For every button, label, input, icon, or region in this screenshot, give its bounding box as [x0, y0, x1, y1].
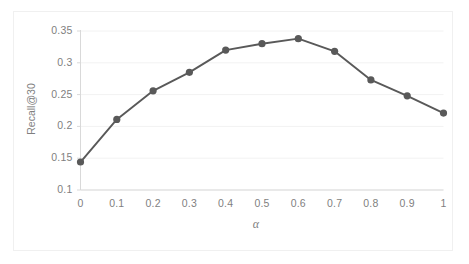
- data-point: α=0.7, Recall@30=0.318: [331, 48, 338, 55]
- x-tick-label: 0: [66, 197, 96, 209]
- data-point: α=0.1, Recall@30=0.211: [113, 116, 120, 123]
- data-point: α=0.3, Recall@30=0.285: [186, 69, 193, 76]
- y-tick-label: 0.25: [39, 88, 73, 100]
- x-axis-title: α: [206, 217, 306, 232]
- data-point: α=0.5, Recall@30=0.33: [258, 40, 265, 47]
- x-tick-label: 0.4: [211, 197, 241, 209]
- data-point: α=0.4, Recall@30=0.32: [222, 46, 229, 53]
- x-tick-label: 0.7: [320, 197, 350, 209]
- series-markers-recall: α=0, Recall@30=0.144α=0.1, Recall@30=0.2…: [77, 35, 447, 166]
- data-point: α=0.9, Recall@30=0.248: [404, 92, 411, 99]
- series-line-recall: [81, 39, 444, 162]
- data-point: α=0.6, Recall@30=0.338: [295, 35, 302, 42]
- data-point: α=1, Recall@30=0.221: [440, 109, 447, 116]
- y-tick-label: 0.2: [39, 119, 73, 131]
- axis-lines: [81, 30, 444, 190]
- data-point: α=0, Recall@30=0.144: [77, 158, 84, 165]
- x-tick-label: 0.5: [247, 197, 277, 209]
- y-tick-label: 0.35: [39, 24, 73, 36]
- y-tick-label: 0.3: [39, 56, 73, 68]
- y-tick-label: 0.15: [39, 151, 73, 163]
- x-tick-label: 0.6: [283, 197, 313, 209]
- x-tick-label: 0.9: [392, 197, 422, 209]
- chart-figure: α=0, Recall@30=0.144α=0.1, Recall@30=0.2…: [0, 0, 469, 264]
- data-point: α=0.2, Recall@30=0.256: [150, 87, 157, 94]
- y-tick-label: 0.1: [39, 183, 73, 195]
- y-axis-title: Recall@30: [25, 69, 37, 149]
- gridlines: [81, 31, 444, 190]
- x-tick-label: 0.2: [138, 197, 168, 209]
- x-tick-label: 1: [429, 197, 459, 209]
- x-tick-label: 0.8: [356, 197, 386, 209]
- x-tick-label: 0.1: [102, 197, 132, 209]
- x-tick-label: 0.3: [174, 197, 204, 209]
- tick-marks: [77, 31, 81, 190]
- data-point: α=0.8, Recall@30=0.273: [367, 76, 374, 83]
